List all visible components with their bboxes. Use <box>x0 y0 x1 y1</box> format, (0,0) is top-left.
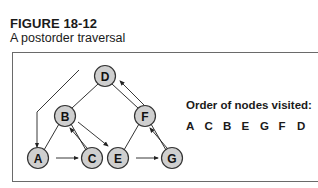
arrow-g-to-f <box>150 128 167 148</box>
svg-text:C: C <box>88 152 97 166</box>
node-d: D <box>95 66 116 87</box>
edge-d-b <box>72 84 98 108</box>
node-c: C <box>82 148 103 169</box>
order-title: Order of nodes visited: <box>186 99 312 111</box>
svg-text:D: D <box>101 70 110 84</box>
order-item: G <box>260 120 279 132</box>
order-item: F <box>279 120 298 132</box>
binary-tree-diagram: D B F A C E G <box>0 0 318 188</box>
node-b: B <box>55 106 76 127</box>
svg-text:A: A <box>34 152 43 166</box>
edge-b-a <box>44 124 59 150</box>
edge-d-f <box>112 84 138 108</box>
tree-nodes: D B F A C E G <box>28 66 183 169</box>
order-item: C <box>205 120 224 132</box>
svg-text:B: B <box>61 110 70 124</box>
node-a: A <box>28 148 49 169</box>
node-g: G <box>162 148 183 169</box>
svg-text:E: E <box>114 152 122 166</box>
order-item: B <box>223 120 242 132</box>
order-item: D <box>297 120 316 132</box>
svg-text:F: F <box>141 110 148 124</box>
arrow-c-to-b <box>70 128 87 148</box>
order-sequence: A C B E G F D <box>186 120 316 132</box>
node-f: F <box>135 106 156 127</box>
svg-text:G: G <box>167 152 176 166</box>
edge-f-e <box>124 124 139 150</box>
node-e: E <box>108 148 129 169</box>
order-item: A <box>186 120 205 132</box>
order-item: E <box>242 120 261 132</box>
edge-f-g <box>151 124 166 150</box>
arrow-f-to-d <box>120 81 144 105</box>
edge-b-c <box>71 124 86 150</box>
